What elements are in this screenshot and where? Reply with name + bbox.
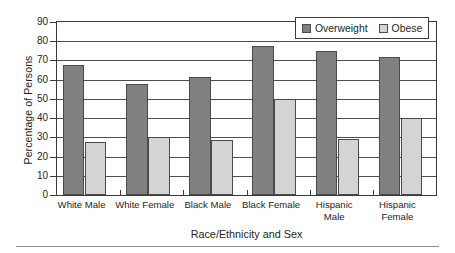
x-axis-tick (247, 190, 248, 195)
x-axis-category-label: Black Male (176, 199, 239, 211)
legend-item-obese: Obese (379, 23, 423, 34)
bar-obese (85, 142, 107, 195)
x-axis-tick (120, 190, 121, 195)
y-axis-tick-label: 10 (20, 171, 48, 181)
bar-overweight (379, 57, 401, 195)
bar-overweight (189, 77, 211, 195)
chart-figure: Percentage of Persons 908070605040302010… (0, 0, 455, 253)
bar-overweight (63, 65, 85, 195)
x-axis-title: Race/Ethnicity and Sex (56, 228, 437, 240)
y-axis-tick-label: 90 (20, 17, 48, 27)
x-axis-category-label: HispanicMale (303, 199, 366, 222)
chart-legend: Overweight Obese (295, 17, 429, 39)
x-axis-category-label: Black Female (240, 199, 303, 211)
bar-overweight (126, 84, 148, 195)
y-axis-tick-label: 80 (20, 36, 48, 46)
x-axis-category-label: White Male (50, 199, 113, 211)
y-axis-tick-label: 70 (20, 55, 48, 65)
y-axis-tick-label: 30 (20, 132, 48, 142)
legend-item-overweight: Overweight (302, 23, 368, 34)
plot-area (56, 21, 437, 196)
x-axis-category-label: HispanicFemale (366, 199, 429, 222)
legend-swatch-overweight-icon (302, 24, 311, 33)
bar-obese (148, 137, 170, 195)
x-axis-tick (183, 190, 184, 195)
x-axis-category-label: White Female (113, 199, 176, 211)
gridline (57, 41, 436, 42)
bar-obese (338, 139, 360, 195)
x-axis-tick (310, 190, 311, 195)
y-axis-tick-label: 50 (20, 94, 48, 104)
bar-obese (274, 99, 296, 195)
legend-label-obese: Obese (392, 23, 423, 34)
y-axis-tick-label: 20 (20, 152, 48, 162)
bar-obese (401, 118, 423, 195)
x-axis-tick (373, 190, 374, 195)
legend-swatch-obese-icon (379, 24, 388, 33)
bar-overweight (316, 51, 338, 195)
bar-obese (211, 140, 233, 195)
y-axis-tick-label: 0 (20, 190, 48, 200)
x-axis-category-labels: White MaleWhite FemaleBlack MaleBlack Fe… (56, 199, 437, 229)
y-axis-tick-label: 40 (20, 113, 48, 123)
y-axis-tick-label: 60 (20, 75, 48, 85)
legend-label-overweight: Overweight (315, 23, 368, 34)
bar-overweight (252, 46, 274, 195)
footer-divider (16, 246, 439, 247)
